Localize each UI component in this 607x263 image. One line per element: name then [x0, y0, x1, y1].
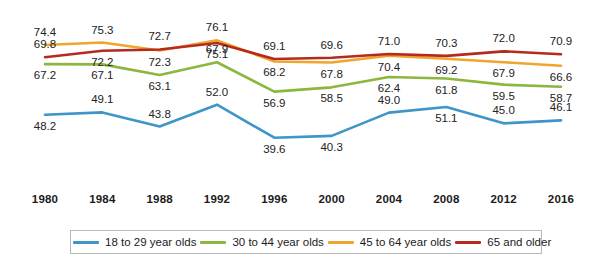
data-point-label: 70.9: [550, 35, 572, 47]
x-axis-tick: 1984: [89, 193, 115, 205]
data-point-label: 75.3: [91, 24, 113, 36]
data-point-label: 67.1: [91, 69, 113, 81]
legend-item[interactable]: 30 to 44 year olds: [198, 236, 325, 248]
data-point-label: 63.1: [148, 80, 170, 92]
data-point-label: 56.9: [263, 97, 285, 109]
data-point-label: 72.3: [148, 56, 170, 68]
x-axis-tick: 2000: [318, 193, 344, 205]
data-point-label: 70.4: [378, 61, 400, 73]
legend-label: 45 to 64 year olds: [360, 236, 451, 248]
series-line: [45, 105, 561, 138]
data-point-label: 62.4: [378, 82, 400, 94]
data-point-label: 67.2: [34, 69, 56, 81]
data-point-label: 67.9: [492, 67, 514, 79]
data-point-label: 58.7: [550, 92, 572, 104]
legend-label: 30 to 44 year olds: [232, 236, 323, 248]
legend-item[interactable]: 65 and older: [453, 236, 553, 248]
legend-item[interactable]: 18 to 29 year olds: [71, 236, 198, 248]
data-point-label: 51.1: [435, 112, 457, 124]
data-point-label: 58.5: [320, 92, 342, 104]
x-axis-tick: 2012: [490, 193, 516, 205]
plot-area: [0, 0, 607, 263]
data-point-label: 71.0: [378, 35, 400, 47]
x-axis-tick: 2008: [433, 193, 459, 205]
legend-swatch-icon: [328, 241, 354, 244]
data-point-label: 48.2: [34, 120, 56, 132]
data-point-label: 75.1: [206, 48, 228, 60]
data-point-label: 40.3: [320, 141, 342, 153]
data-point-label: 59.5: [492, 90, 514, 102]
data-point-label: 61.8: [435, 84, 457, 96]
legend-swatch-icon: [200, 241, 226, 244]
legend-swatch-icon: [73, 241, 99, 244]
x-axis-tick: 1980: [32, 193, 58, 205]
data-point-label: 43.8: [148, 108, 170, 120]
x-axis-tick: 1996: [261, 193, 287, 205]
data-point-label: 72.0: [492, 32, 514, 44]
data-point-label: 72.2: [91, 56, 113, 68]
legend-swatch-icon: [455, 241, 481, 244]
series-line: [45, 62, 561, 91]
legend-item[interactable]: 45 to 64 year olds: [326, 236, 453, 248]
data-point-label: 49.0: [378, 94, 400, 106]
chart-legend: 18 to 29 year olds30 to 44 year olds45 t…: [70, 230, 542, 254]
data-point-label: 69.2: [435, 64, 457, 76]
data-point-label: 74.4: [34, 26, 56, 38]
data-point-label: 72.7: [148, 30, 170, 42]
data-point-label: 45.0: [492, 104, 514, 116]
x-axis-tick-labels: 1980198419881992199620002004200820122016: [0, 193, 607, 215]
data-point-label: 49.1: [91, 93, 113, 105]
x-axis-tick: 2004: [376, 193, 402, 205]
data-point-label: 70.3: [435, 37, 457, 49]
data-point-label: 69.8: [34, 38, 56, 50]
legend-label: 18 to 29 year olds: [105, 236, 196, 248]
x-axis-tick: 2016: [548, 193, 574, 205]
x-axis-tick: 1988: [146, 193, 172, 205]
data-point-label: 52.0: [206, 86, 228, 98]
data-point-label: 39.6: [263, 143, 285, 155]
data-point-label: 68.2: [263, 66, 285, 78]
data-point-label: 76.1: [206, 21, 228, 33]
x-axis-tick: 1992: [204, 193, 230, 205]
legend-label: 65 and older: [487, 236, 551, 248]
data-point-label: 69.6: [320, 39, 342, 51]
data-point-label: 66.6: [550, 71, 572, 83]
data-point-label: 69.1: [263, 40, 285, 52]
line-chart: 1980198419881992199620002004200820122016…: [0, 0, 607, 263]
data-point-label: 67.8: [320, 68, 342, 80]
